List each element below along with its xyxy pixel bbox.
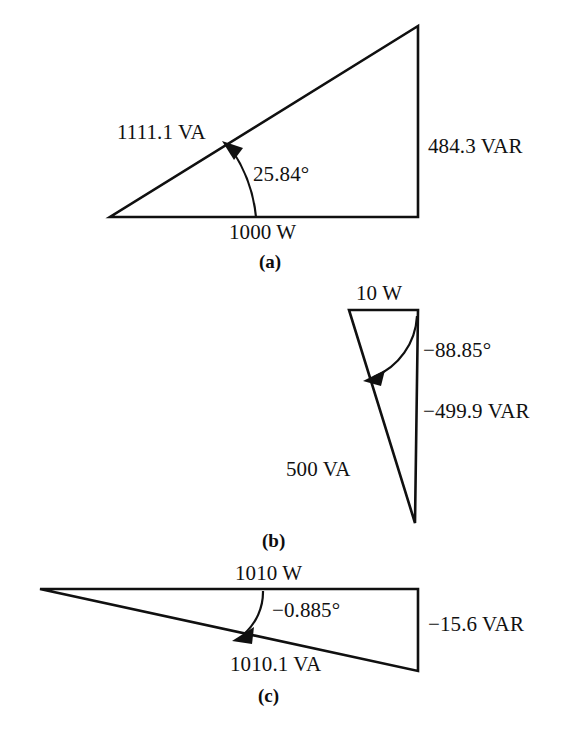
triangle-a-real-power-label: 1000 W — [229, 222, 296, 243]
triangle-b-group — [349, 310, 418, 523]
triangle-a-reactive-power-label: 484.3 VAR — [428, 136, 523, 157]
triangle-a-angle-arrowhead — [222, 141, 243, 160]
triangle-c-real-power-label: 1010 W — [235, 563, 302, 584]
triangle-a-apparent-power-label: 1111.1 VA — [117, 122, 206, 143]
triangle-b-apparent-power-label: 500 VA — [286, 459, 351, 480]
triangle-b-angle-arc — [374, 316, 417, 377]
caption-c: (c) — [258, 686, 279, 705]
triangle-b-reactive-power-label: −499.9 VAR — [423, 401, 530, 422]
triangle-b-angle-label: −88.85° — [423, 340, 491, 361]
power-triangle-figure: 1111.1 VA 484.3 VAR 1000 W 25.84° (a) 10… — [0, 0, 566, 740]
triangle-c-angle-arrowhead — [232, 627, 254, 644]
triangle-c-reactive-power-label: −15.6 VAR — [428, 614, 524, 635]
triangle-b-angle-arrowhead — [363, 370, 385, 386]
triangle-c-outline — [40, 589, 418, 671]
triangle-c-angle-label: −0.885° — [272, 600, 340, 621]
caption-a: (a) — [259, 252, 281, 271]
triangle-c-group — [40, 589, 418, 671]
triangle-c-apparent-power-label: 1010.1 VA — [230, 654, 321, 675]
caption-b: (b) — [262, 531, 285, 550]
triangle-b-real-power-label: 10 W — [356, 283, 402, 304]
triangle-a-angle-label: 25.84° — [253, 164, 309, 185]
triangle-b-outline — [349, 310, 418, 523]
